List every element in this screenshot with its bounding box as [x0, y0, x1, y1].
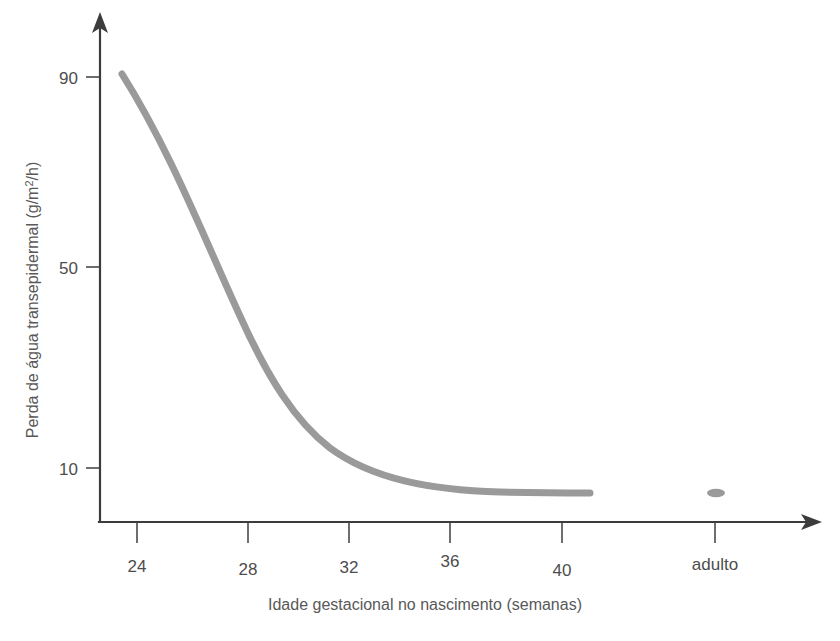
y-tick-label-90: 90 — [59, 69, 78, 88]
data-curve-transepidermal-water-loss — [122, 74, 590, 493]
x-tick-label-36: 36 — [441, 552, 460, 571]
data-point-adulto — [707, 489, 725, 497]
x-tick-label-24: 24 — [128, 557, 147, 576]
x-tick-label-32: 32 — [340, 558, 359, 577]
y-tick-label-50: 50 — [59, 259, 78, 278]
x-tick-label-adulto: adulto — [692, 555, 738, 574]
x-tick-label-40: 40 — [553, 561, 572, 580]
chart-figure: 90 50 10 24 28 32 36 40 adulto Idade ges… — [0, 0, 840, 641]
x-axis-title: Idade gestacional no nascimento (semanas… — [268, 596, 582, 613]
y-axis-title-before: Perda de água transepidermal (g/m — [24, 187, 41, 439]
y-tick-label-10: 10 — [59, 460, 78, 479]
x-tick-label-28: 28 — [239, 560, 258, 579]
chart-canvas: 90 50 10 24 28 32 36 40 adulto Idade ges… — [0, 0, 840, 641]
y-axis-title-after: /h) — [24, 162, 41, 181]
y-axis-title: Perda de água transepidermal (g/m2/h) — [23, 162, 41, 439]
